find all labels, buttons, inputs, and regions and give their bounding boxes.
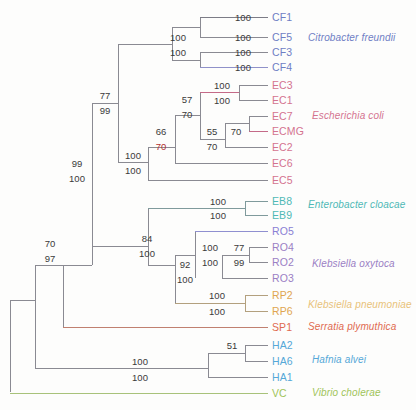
bootstrap-value: 100	[132, 356, 148, 367]
taxon-label-ro5: RO5	[272, 226, 294, 237]
taxon-label-cf4: CF4	[272, 62, 292, 73]
bootstrap-value: 100	[202, 257, 218, 268]
bootstrap-value: 97	[45, 253, 56, 264]
bootstrap-value: 100	[235, 32, 251, 43]
taxon-label-eb9: EB9	[272, 210, 292, 221]
taxon-label-eb8: EB8	[272, 196, 292, 207]
species-label: Hafnia alvei	[312, 355, 366, 366]
taxon-label-ro2: RO2	[272, 257, 294, 268]
bootstrap-value: 66	[156, 126, 167, 137]
taxon-label-cf1: CF1	[272, 12, 292, 23]
bootstrap-value: 100	[214, 80, 230, 91]
taxon-label-ecmg: ECMG	[272, 126, 304, 137]
bootstrap-value: 100	[235, 47, 251, 58]
bootstrap-value: 100	[170, 32, 186, 43]
bootstrap-value: 100	[139, 248, 155, 259]
taxon-label-ec5: EC5	[272, 175, 293, 186]
bootstrap-value: 100	[69, 173, 85, 184]
bootstrap-value: 70	[207, 141, 218, 152]
species-label: Escherichia coli	[312, 111, 384, 122]
species-label: Klebsiella pneumoniae	[308, 300, 412, 311]
bootstrap-value: 100	[177, 274, 193, 285]
phylogenetic-tree-figure: 1001001001001001001001005770557070667010…	[0, 0, 416, 410]
bootstrap-value: 100	[125, 150, 141, 161]
bootstrap-value: 100	[235, 62, 251, 73]
bootstrap-value: 55	[207, 126, 218, 137]
bootstrap-value: 100	[125, 165, 141, 176]
species-label: Vibrio cholerae	[312, 388, 381, 399]
taxon-label-ec2: EC2	[272, 142, 293, 153]
bootstrap-value: 100	[210, 196, 226, 207]
taxon-label-ro3: RO3	[272, 273, 294, 284]
bootstrap-value: 57	[182, 94, 193, 105]
species-label: Enterobacter cloacae	[308, 200, 406, 211]
bootstrap-value: 70	[45, 238, 56, 249]
taxon-label-vc: VC	[272, 388, 287, 399]
taxon-label-ec1: EC1	[272, 95, 293, 106]
bootstrap-value: 99	[72, 158, 83, 169]
bootstrap-value: 77	[100, 90, 111, 101]
bootstrap-value: 84	[142, 233, 153, 244]
taxon-label-cf3: CF3	[272, 47, 292, 58]
bootstrap-value: 100	[132, 372, 148, 383]
bootstrap-value: 99	[234, 257, 245, 268]
bootstrap-value: 100	[214, 95, 230, 106]
taxon-label-sp1: SP1	[272, 322, 292, 333]
taxon-label-cf5: CF5	[272, 32, 292, 43]
taxon-label-ro4: RO4	[272, 242, 294, 253]
taxon-label-rp6: RP6	[272, 306, 293, 317]
taxon-label-ha6: HA6	[272, 356, 293, 367]
species-label: Citrobacter freundii	[308, 33, 395, 44]
taxon-label-ha2: HA2	[272, 340, 293, 351]
taxon-label-ec3: EC3	[272, 80, 293, 91]
bootstrap-value: 100	[210, 210, 226, 221]
species-label: Serratia plymuthica	[308, 322, 396, 333]
bootstrap-value: 100	[209, 306, 225, 317]
bootstrap-value: 70	[156, 141, 167, 152]
bootstrap-value: 100	[235, 12, 251, 23]
bootstrap-value: 100	[202, 242, 218, 253]
bootstrap-value: 99	[100, 105, 111, 116]
bootstrap-value: 92	[180, 259, 191, 270]
bootstrap-value: 77	[234, 242, 245, 253]
bootstrap-value: 100	[170, 47, 186, 58]
taxon-label-ec6: EC6	[272, 158, 293, 169]
species-label: Klebsiella oxytoca	[312, 259, 395, 270]
taxon-label-ha1: HA1	[272, 372, 293, 383]
taxon-label-ec7: EC7	[272, 111, 293, 122]
bootstrap-value: 51	[227, 340, 238, 351]
bootstrap-value: 70	[231, 126, 242, 137]
bootstrap-value: 70	[182, 109, 193, 120]
taxon-label-rp2: RP2	[272, 290, 293, 301]
bootstrap-value: 100	[209, 290, 225, 301]
